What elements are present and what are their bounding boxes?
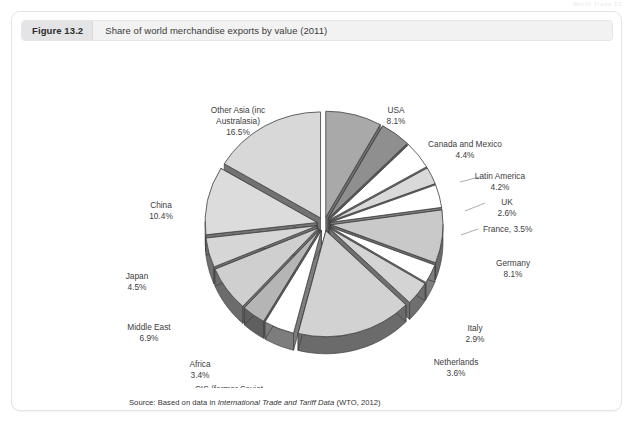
pie-label: Canada and Mexico4.4% — [428, 139, 502, 160]
pie-label: USA8.1% — [387, 105, 407, 126]
pie-label: UK2.6% — [498, 197, 518, 218]
pie-label: Africa3.4% — [189, 359, 211, 380]
source-note: Source: Based on data in International T… — [129, 398, 381, 407]
svg-text:Japan4.5%: Japan4.5% — [126, 271, 149, 292]
figure-header: Figure 13.2 Share of world merchandise e… — [21, 20, 613, 41]
svg-text:USA8.1%: USA8.1% — [387, 105, 407, 126]
pie-label: China10.4% — [149, 200, 173, 221]
source-suffix: (WTO, 2012) — [334, 398, 380, 407]
pie-label: Latin America4.2% — [475, 171, 526, 192]
pie-chart: USA8.1%Canada and Mexico4.4%Latin Americ… — [13, 43, 622, 388]
svg-text:China10.4%: China10.4% — [149, 200, 173, 221]
svg-text:Latin America4.2%: Latin America4.2% — [475, 171, 526, 192]
pie-label: CIS (former Sovietrepublics)4.4% — [195, 384, 264, 388]
figure-page: World Trade 13 Figure 13.2 Share of worl… — [0, 0, 634, 427]
figure-caption: Share of world merchandise exports by va… — [93, 25, 327, 36]
svg-text:CIS (former Sovietrepublics)4.: CIS (former Sovietrepublics)4.4% — [195, 384, 264, 388]
running-head: World Trade 13 — [573, 1, 622, 7]
pie-chart-svg: USA8.1%Canada and Mexico4.4%Latin Americ… — [13, 43, 622, 388]
figure-panel: Figure 13.2 Share of world merchandise e… — [11, 11, 622, 411]
pie-label: Japan4.5% — [126, 271, 149, 292]
svg-text:Canada and Mexico4.4%: Canada and Mexico4.4% — [428, 139, 502, 160]
pie-label: Italy2.9% — [466, 323, 486, 344]
pie-label: Middle East6.9% — [127, 322, 171, 343]
svg-text:Africa3.4%: Africa3.4% — [189, 359, 211, 380]
source-prefix: Source: Based on data in — [129, 398, 218, 407]
source-title: International Trade and Tariff Data — [218, 398, 335, 407]
figure-number: Figure 13.2 — [22, 21, 93, 40]
pie-label: Germany8.1% — [496, 258, 531, 279]
svg-text:Germany8.1%: Germany8.1% — [496, 258, 531, 279]
svg-text:Middle East6.9%: Middle East6.9% — [127, 322, 171, 343]
svg-text:Netherlands3.6%: Netherlands3.6% — [434, 357, 479, 378]
svg-text:UK2.6%: UK2.6% — [498, 197, 518, 218]
svg-text:Italy2.9%: Italy2.9% — [466, 323, 486, 344]
label-leader-line — [465, 203, 485, 211]
pie-label: France, 3.5% — [483, 224, 533, 234]
svg-text:France, 3.5%: France, 3.5% — [483, 224, 533, 234]
pie-label: Netherlands3.6% — [434, 357, 479, 378]
label-leader-line — [461, 229, 478, 235]
